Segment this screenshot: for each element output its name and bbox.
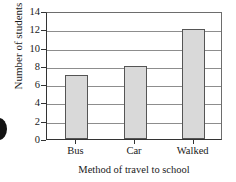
y-axis-tick-label: 12	[24, 25, 40, 35]
y-axis-tick	[41, 30, 46, 31]
y-axis-tick-label: 0	[24, 135, 40, 145]
edge-bullet-marker	[0, 118, 7, 140]
y-axis-tick	[41, 49, 46, 50]
x-axis-label-car: Car	[104, 144, 164, 157]
y-axis-tick	[41, 85, 46, 86]
y-axis-tick-label: 14	[24, 7, 40, 17]
x-axis-label-walked: Walked	[163, 144, 223, 157]
y-axis-tick-labels: 02468101214	[16, 0, 40, 182]
y-axis-tick	[41, 103, 46, 104]
x-axis-title: Method of travel to school	[46, 163, 222, 176]
y-axis-tick-label: 2	[24, 117, 40, 127]
bar-bus	[65, 75, 88, 139]
y-axis-tick-label: 10	[24, 44, 40, 54]
bars-group	[47, 13, 221, 139]
y-axis-tick	[41, 67, 46, 68]
bar-walked	[182, 29, 205, 139]
bar-chart-figure: Number of students 02468101214 Method of…	[0, 0, 236, 182]
bar-car	[124, 66, 147, 139]
x-axis-label-bus: Bus	[45, 144, 105, 157]
plot-area	[46, 12, 222, 140]
y-axis-tick-label: 4	[24, 98, 40, 108]
y-axis-tick	[41, 140, 46, 141]
y-axis-tick	[41, 12, 46, 13]
y-axis-tick	[41, 122, 46, 123]
y-axis-tick-label: 6	[24, 80, 40, 90]
y-axis-tick-label: 8	[24, 62, 40, 72]
